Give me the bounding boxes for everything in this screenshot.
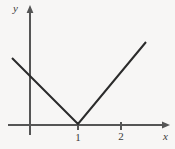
curve-absolute-value xyxy=(12,42,146,124)
x-tick-label-1: 1 xyxy=(71,132,85,143)
y-axis-label: y xyxy=(13,3,18,14)
x-axis-label: x xyxy=(163,131,168,142)
y-axis-arrow-icon xyxy=(27,5,34,13)
x-axis-arrow-icon xyxy=(162,122,170,129)
x-tick-label-2: 2 xyxy=(114,131,128,142)
figure-container: y x 1 2 xyxy=(0,0,175,149)
plot-canvas xyxy=(0,0,175,149)
